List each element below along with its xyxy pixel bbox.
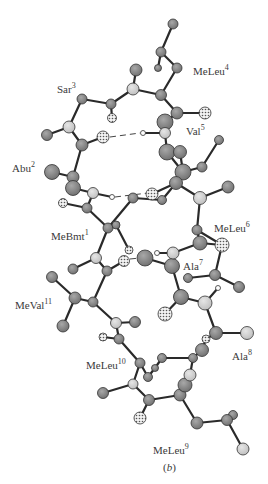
figure-caption: (b) <box>163 461 176 473</box>
residue-label-meleu4: MeLeu4 <box>193 64 229 77</box>
residue-label-meleu10: MeLeu10 <box>86 358 126 371</box>
residue-label-ala7: Ala7 <box>183 259 203 272</box>
residue-label-mebmt1: MeBmt1 <box>51 229 89 242</box>
residue-label-ala8: Ala8 <box>232 349 252 362</box>
carbon-atoms-front <box>45 114 208 392</box>
residue-label-meleu6: MeLeu6 <box>214 221 250 234</box>
residue-label-meleu9: MeLeu9 <box>153 443 189 456</box>
residue-label-sar3: Sar3 <box>57 82 76 95</box>
residue-label-meval11: MeVal11 <box>15 298 52 311</box>
residue-label-abu2: Abu2 <box>12 161 35 174</box>
residue-label-val5: Val5 <box>186 124 205 137</box>
